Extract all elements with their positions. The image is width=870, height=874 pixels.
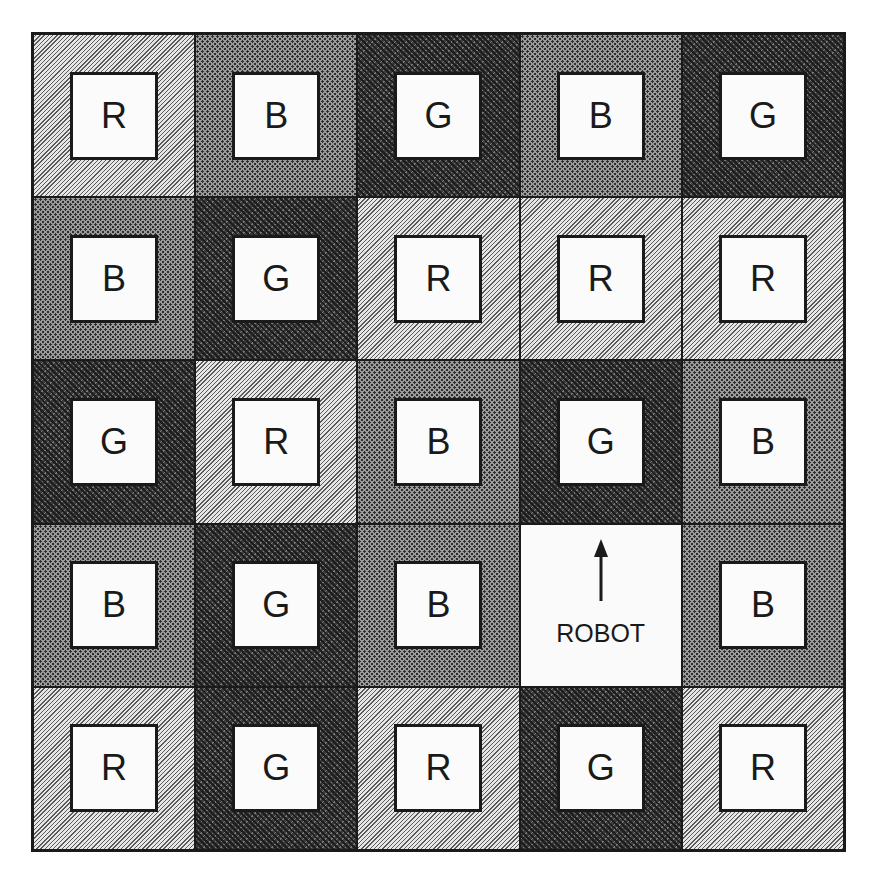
tile-label: R	[750, 750, 776, 786]
color-tile: R	[70, 72, 158, 160]
tile-label: B	[589, 98, 613, 134]
grid-world: R B G B G B G R R R G R B G B B G B ROBO…	[31, 32, 846, 852]
grid-cell-r1-c1: G	[196, 198, 356, 359]
tile-label: B	[102, 587, 126, 623]
grid-cell-r0-c4: G	[683, 35, 843, 196]
arrow-up-icon	[593, 539, 609, 601]
robot: ROBOT	[521, 525, 681, 686]
grid-cell-r2-c2: B	[358, 361, 518, 522]
tile-label: R	[263, 424, 289, 460]
tile-label: B	[751, 424, 775, 460]
color-tile: R	[557, 235, 645, 323]
tile-label: G	[587, 424, 615, 460]
grid-cell-r0-c3: B	[521, 35, 681, 196]
color-tile: B	[394, 561, 482, 649]
color-tile: R	[70, 724, 158, 812]
color-tile: G	[394, 72, 482, 160]
color-tile: B	[70, 235, 158, 323]
color-tile: G	[232, 235, 320, 323]
grid-cell-r3-c2: B	[358, 525, 518, 686]
color-tile: R	[719, 235, 807, 323]
color-tile: G	[70, 398, 158, 486]
tile-label: R	[101, 750, 127, 786]
color-tile: G	[232, 561, 320, 649]
tile-label: G	[262, 750, 290, 786]
grid-cell-r3-c3-robot: ROBOT	[521, 525, 681, 686]
grid-cell-r0-c2: G	[358, 35, 518, 196]
robot-label: ROBOT	[521, 619, 681, 648]
tile-label: B	[751, 587, 775, 623]
color-tile: B	[719, 561, 807, 649]
color-tile: B	[557, 72, 645, 160]
grid-cell-r4-c2: R	[358, 688, 518, 849]
tile-label: R	[425, 750, 451, 786]
grid-cell-r2-c0: G	[34, 361, 194, 522]
tile-label: G	[262, 261, 290, 297]
color-tile: R	[394, 724, 482, 812]
color-tile: R	[719, 724, 807, 812]
grid-cell-r0-c0: R	[34, 35, 194, 196]
tile-label: B	[426, 424, 450, 460]
color-tile: B	[70, 561, 158, 649]
grid-cell-r2-c3: G	[521, 361, 681, 522]
grid-cell-r3-c0: B	[34, 525, 194, 686]
tile-label: R	[101, 98, 127, 134]
grid-cell-r2-c4: B	[683, 361, 843, 522]
tile-label: B	[426, 587, 450, 623]
color-tile: B	[719, 398, 807, 486]
grid-cell-r1-c4: R	[683, 198, 843, 359]
tile-label: R	[750, 261, 776, 297]
color-tile: B	[232, 72, 320, 160]
grid-cell-r0-c1: B	[196, 35, 356, 196]
tile-label: G	[587, 750, 615, 786]
tile-label: G	[262, 587, 290, 623]
grid-cell-r4-c0: R	[34, 688, 194, 849]
grid-cell-r1-c3: R	[521, 198, 681, 359]
tile-label: B	[264, 98, 288, 134]
tile-label: B	[102, 261, 126, 297]
tile-label: G	[424, 98, 452, 134]
grid-cell-r4-c1: G	[196, 688, 356, 849]
color-tile: G	[232, 724, 320, 812]
grid-cell-r3-c4: B	[683, 525, 843, 686]
tile-label: G	[100, 424, 128, 460]
color-tile: R	[232, 398, 320, 486]
grid-cell-r1-c0: B	[34, 198, 194, 359]
grid-cell-r2-c1: R	[196, 361, 356, 522]
grid-cell-r1-c2: R	[358, 198, 518, 359]
tile-label: R	[588, 261, 614, 297]
color-tile: G	[557, 398, 645, 486]
tile-label: G	[749, 98, 777, 134]
color-tile: R	[394, 235, 482, 323]
grid-cell-r4-c4: R	[683, 688, 843, 849]
grid-cell-r3-c1: G	[196, 525, 356, 686]
grid-cell-r4-c3: G	[521, 688, 681, 849]
color-tile: G	[719, 72, 807, 160]
tile-label: R	[425, 261, 451, 297]
color-tile: G	[557, 724, 645, 812]
color-tile: B	[394, 398, 482, 486]
